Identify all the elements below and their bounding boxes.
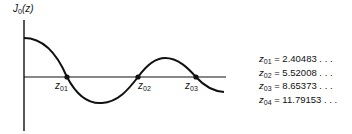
bessel-curve [24, 38, 224, 103]
zero-equation-3: z03 = 8.65373 . . . [259, 81, 337, 95]
zero-point-1 [64, 74, 69, 79]
zero-point-2 [135, 74, 140, 79]
zero-label-3: z03 [185, 80, 198, 92]
zero-equation-1: z01 = 2.40483 . . . [259, 54, 337, 68]
zero-label-2: z02 [138, 80, 151, 92]
zeros-list: z01 = 2.40483 . . . z02 = 5.52008 . . . … [259, 54, 337, 108]
y-axis-label: J0(z) [13, 3, 34, 15]
zero-point-3 [193, 74, 198, 79]
zero-equation-4: z04 = 11.79153 . . . [259, 95, 337, 109]
zero-label-1: z01 [55, 80, 68, 92]
zero-equation-2: z02 = 5.52008 . . . [259, 68, 337, 82]
